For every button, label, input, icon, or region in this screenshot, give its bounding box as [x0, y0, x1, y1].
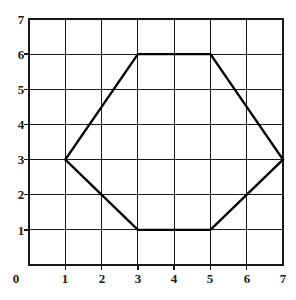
- x-axis-label-1: 1: [57, 272, 73, 285]
- plot-frame: [29, 19, 283, 265]
- coordinate-grid-plot: [0, 0, 296, 300]
- x-axis-label-6: 6: [239, 272, 255, 285]
- y-axis-label-1: 1: [13, 224, 29, 237]
- grid-lines-horizontal: [29, 54, 283, 230]
- y-axis-label-6: 6: [13, 48, 29, 61]
- grid-lines-vertical: [65, 19, 246, 265]
- y-axis-label-2: 2: [13, 188, 29, 201]
- x-axis-label-5: 5: [202, 272, 218, 285]
- x-axis-label-7: 7: [275, 272, 291, 285]
- figure-canvas: 7 6 5 4 3 2 1 0 1 2 3 4 5 6 7: [0, 0, 296, 300]
- y-axis-label-3: 3: [13, 153, 29, 166]
- x-axis-label-3: 3: [130, 272, 146, 285]
- x-axis-label-0: 0: [8, 272, 24, 285]
- x-axis-label-2: 2: [94, 272, 110, 285]
- y-axis-label-7: 7: [13, 13, 29, 26]
- y-axis-label-5: 5: [13, 83, 29, 96]
- x-axis-label-4: 4: [166, 272, 182, 285]
- y-axis-label-4: 4: [13, 118, 29, 131]
